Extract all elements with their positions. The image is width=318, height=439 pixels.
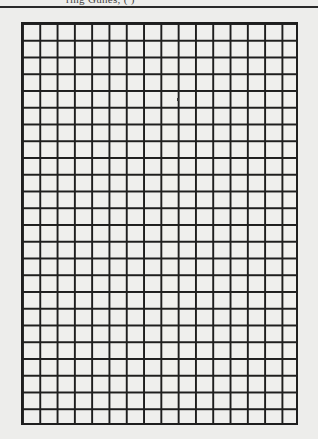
header-rule	[0, 6, 318, 8]
paper-speck	[177, 98, 179, 101]
graph-paper-grid	[21, 22, 298, 425]
header-text: ring Gunes, ( )	[66, 0, 135, 5]
